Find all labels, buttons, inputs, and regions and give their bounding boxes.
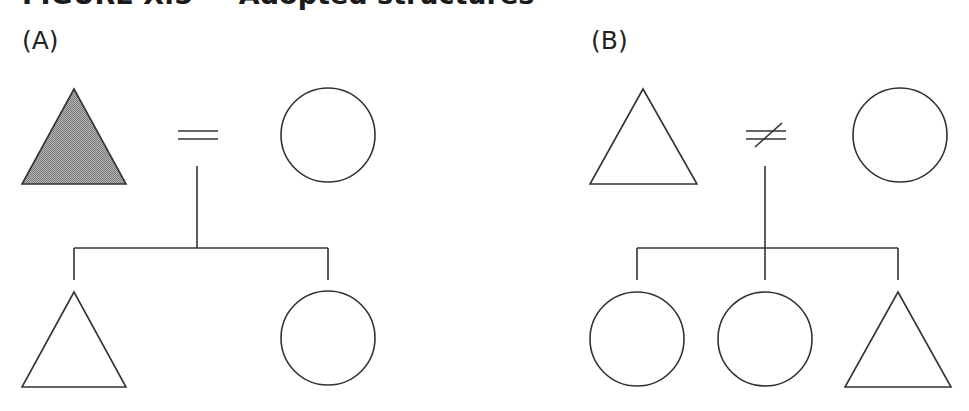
panel-a [22,88,375,387]
panel-a-mother-circle [281,88,375,182]
panel-b-son-triangle [845,292,951,387]
panel-a-father-triangle-filled [22,89,126,184]
panel-b-divorce-not-equal-icon [746,123,786,147]
panel-b-father-triangle [590,89,697,184]
panel-b [590,88,951,387]
panel-b-daughter-1-circle [590,292,684,386]
panel-b-mother-circle [853,88,947,182]
panel-b-daughter-2-circle [718,292,812,386]
panel-a-marriage-equals-icon [178,131,218,139]
panel-a-son-triangle [22,292,126,387]
kinship-diagram [0,0,969,411]
panel-a-daughter-circle [281,291,375,385]
